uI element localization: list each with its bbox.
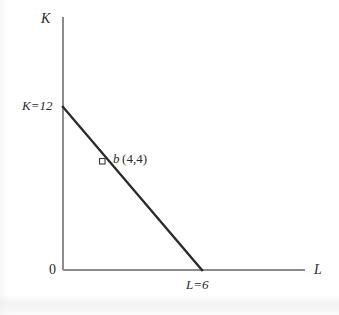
x-axis-label: L xyxy=(314,263,322,277)
economics-isocost-figure: K L 0 K=12 L=6 b (4,4) xyxy=(0,0,339,315)
point-b-coordinates: (4,4) xyxy=(122,151,147,166)
isocost-line xyxy=(63,107,202,270)
point-b-label: b (4,4) xyxy=(113,152,147,165)
point-b-marker xyxy=(100,159,106,165)
point-b-symbol: b xyxy=(113,151,120,166)
origin-label: 0 xyxy=(49,263,56,277)
y-axis-label: K xyxy=(41,12,50,26)
x-intercept-label: L=6 xyxy=(186,278,209,291)
y-intercept-label: K=12 xyxy=(22,99,52,112)
